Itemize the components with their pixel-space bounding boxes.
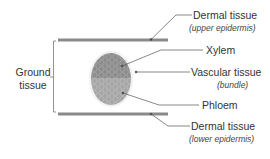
label-ground: Ground [14,66,52,78]
vascular-bundle [89,51,133,108]
label-upper-dermal-tissue: Dermal tissue [193,9,257,21]
label-phloem: Phloem [202,99,238,111]
label-tissue: tissue [14,79,52,91]
label-xylem: Xylem [206,44,235,56]
label-lower-epidermis: (lower epidermis) [189,134,254,144]
leaf-cross-section-diagram: Dermal tissue (upper epidermis) Xylem Va… [0,0,270,159]
label-lower-dermal-tissue: Dermal tissue [191,120,255,132]
label-upper-epidermis: (upper epidermis) [189,23,256,33]
label-vascular-tissue: Vascular tissue [191,66,261,78]
label-bundle: (bundle) [217,80,248,90]
